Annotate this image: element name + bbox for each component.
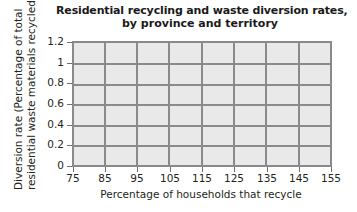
gridline-horizontal: [74, 145, 330, 147]
x-axis-title: Percentage of households that recycle: [56, 188, 346, 200]
y-tick-mark: [67, 83, 72, 84]
plot-area: [72, 41, 332, 167]
y-tick-mark: [67, 63, 72, 64]
y-tick-label: 0.4: [24, 118, 64, 130]
y-tick-mark: [67, 166, 72, 167]
chart-title-line-1: Residential recycling and waste diversio…: [56, 4, 344, 17]
x-tick-label: 155: [311, 172, 351, 184]
y-tick-label: 1: [24, 56, 64, 68]
chart-title: Residential recycling and waste diversio…: [56, 4, 344, 30]
chart-title-line-2: by province and territory: [56, 17, 344, 30]
gridline-horizontal: [74, 125, 330, 127]
y-tick-label: 0.8: [24, 76, 64, 88]
gridline-horizontal: [74, 63, 330, 65]
y-tick-label: 0.6: [24, 97, 64, 109]
gridline-horizontal: [74, 104, 330, 106]
gridline-horizontal: [74, 84, 330, 86]
y-tick-mark: [67, 104, 72, 105]
y-tick-label: 0.2: [24, 138, 64, 150]
y-tick-mark: [67, 145, 72, 146]
chart-figure: Residential recycling and waste diversio…: [0, 0, 357, 212]
y-axis-title-line-1: Diversion rate (Percentage of total: [13, 9, 24, 190]
y-tick-label: 0: [24, 159, 64, 171]
y-tick-mark: [67, 42, 72, 43]
y-tick-mark: [67, 125, 72, 126]
y-tick-label: 1.2: [24, 35, 64, 47]
